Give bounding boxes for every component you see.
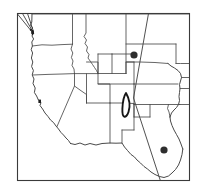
marker-san-francisco-bay — [38, 100, 41, 103]
map-canvas — [0, 0, 198, 195]
marker-northern-colorado — [130, 51, 137, 58]
range-outline-western-kansas — [122, 93, 129, 117]
map-frame-border — [18, 14, 190, 181]
map-figure — [0, 0, 198, 195]
marker-southern-texas — [160, 146, 167, 153]
